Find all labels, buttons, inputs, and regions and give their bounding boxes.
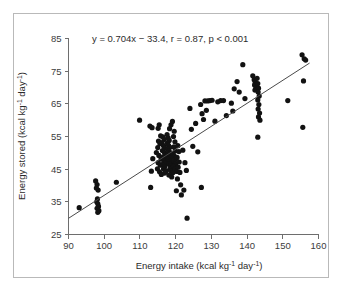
figure-container: 25354555657585 90100110120130140150160 y… (0, 0, 344, 293)
data-point (256, 102, 261, 107)
data-point (300, 125, 305, 130)
regression-line (69, 63, 310, 218)
data-point (201, 117, 206, 122)
data-point (221, 98, 226, 103)
x-tick-label: 140 (239, 240, 255, 251)
data-point (137, 118, 142, 123)
data-point (195, 149, 200, 154)
x-tick-label: 110 (132, 240, 147, 251)
data-point (199, 111, 204, 116)
data-point (209, 98, 214, 103)
x-axis-tick-labels: 90100110120130140150160 (63, 240, 326, 251)
data-point (176, 165, 181, 170)
data-point (114, 180, 119, 185)
data-point (199, 185, 204, 190)
data-point (255, 81, 260, 86)
data-point (242, 96, 247, 101)
data-point (177, 170, 182, 175)
regression-annotation: y = 0.704x − 33.4, r = 0.87, p < 0.001 (92, 33, 248, 44)
data-point (175, 176, 180, 181)
y-tick-label: 55 (51, 131, 62, 142)
data-points (77, 52, 309, 221)
data-point (149, 169, 154, 174)
y-tick-label: 65 (51, 98, 62, 109)
data-point (198, 102, 203, 107)
data-point (257, 118, 262, 123)
data-point (182, 160, 187, 165)
data-point (184, 168, 189, 173)
fit-line (69, 63, 310, 218)
y-tick-label: 45 (51, 164, 62, 175)
data-point (301, 78, 306, 83)
data-point (174, 155, 179, 160)
data-point (96, 187, 101, 192)
data-point (187, 106, 192, 111)
y-tick-label: 35 (51, 196, 62, 207)
data-point (171, 134, 176, 139)
data-point (180, 148, 185, 153)
y-axis-tick-labels: 25354555657585 (51, 33, 62, 240)
data-point (172, 129, 177, 134)
x-tick-label: 100 (96, 240, 112, 251)
data-point (232, 86, 237, 91)
data-point (178, 182, 183, 187)
data-point (95, 210, 100, 215)
data-point (169, 174, 174, 179)
axes (69, 39, 319, 235)
data-point (184, 216, 189, 221)
data-point (285, 98, 290, 103)
data-point (303, 57, 308, 62)
x-tick-label: 90 (63, 240, 74, 251)
data-point (149, 125, 154, 130)
data-point (155, 145, 160, 150)
y-axis-title: Energy stored (kcal kg-1 day-1) (16, 72, 27, 200)
y-tick-label: 75 (51, 66, 62, 77)
data-point (77, 205, 82, 210)
data-point (254, 76, 259, 81)
x-tick-label: 150 (275, 240, 291, 251)
y-tick-label: 25 (51, 229, 62, 240)
data-point (179, 192, 184, 197)
data-point (190, 144, 195, 149)
data-point (240, 62, 245, 67)
data-point (177, 159, 182, 164)
x-tick-label: 160 (311, 240, 327, 251)
data-point (255, 135, 260, 140)
x-tick-label: 130 (203, 240, 219, 251)
x-tick-label: 120 (168, 240, 184, 251)
data-point (157, 122, 162, 127)
data-point (167, 126, 172, 131)
data-point (229, 101, 234, 106)
data-point (237, 89, 242, 94)
data-point (189, 127, 194, 132)
data-point (193, 121, 198, 126)
scatter-plot: 25354555657585 90100110120130140150160 y… (0, 0, 344, 293)
y-tick-label: 85 (51, 33, 62, 44)
x-axis-title: Energy intake (kcal kg-1 day-1) (136, 260, 263, 271)
data-point (181, 187, 186, 192)
data-point (148, 185, 153, 190)
data-point (174, 188, 179, 193)
data-point (234, 79, 239, 84)
data-point (204, 108, 209, 113)
data-point (150, 156, 155, 161)
